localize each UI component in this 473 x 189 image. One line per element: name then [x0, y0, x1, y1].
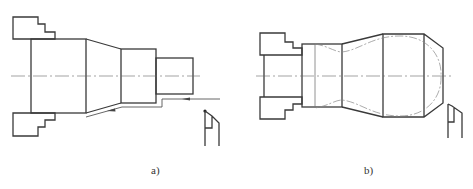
panel-label-b: b): [364, 164, 373, 176]
chuck-jaw-upper-a: [13, 17, 55, 39]
turning-diagram: [0, 0, 473, 189]
neck-cylinder-b: [302, 44, 342, 107]
panel-a: [11, 17, 220, 146]
arrow-left-icon: [182, 98, 190, 101]
chuck-jaw-lower-a: [13, 113, 55, 136]
tool-path-a: [86, 99, 220, 117]
panel-label-a: a): [151, 164, 160, 176]
chuck-jaw-upper-b: [260, 33, 302, 55]
chuck-jaw-lower-b: [260, 97, 302, 119]
turning-tool-b: [448, 104, 462, 138]
turning-tool-a: [203, 109, 219, 146]
panel-b: [256, 33, 462, 138]
flared-section-b: [342, 34, 383, 117]
ball-section-b: [383, 34, 443, 117]
arrow-left-icon: [107, 109, 116, 112]
